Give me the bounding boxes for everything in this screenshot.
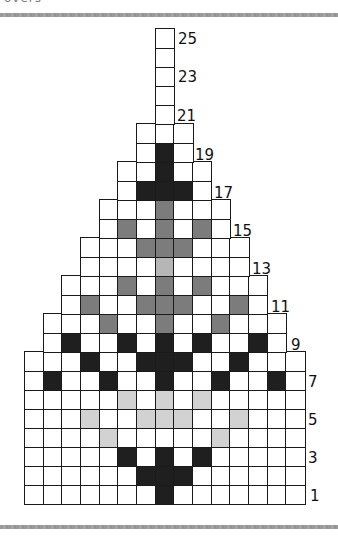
chart-cell <box>248 427 268 448</box>
chart-cell <box>155 66 175 87</box>
chart-cell <box>192 218 212 239</box>
chart-cell <box>155 351 175 372</box>
chart-cell <box>24 408 44 429</box>
chart-cell <box>267 389 287 410</box>
chart-cell <box>229 484 249 505</box>
chart-cell <box>99 275 119 296</box>
chart-cell <box>155 465 175 486</box>
chart-cell <box>173 123 193 144</box>
chart-cell <box>136 465 156 486</box>
chart-cell <box>99 313 119 334</box>
chart-cell <box>24 484 44 505</box>
chart-cell <box>192 370 212 391</box>
chart-cell <box>117 408 137 429</box>
chart-cell <box>192 465 212 486</box>
chart-cell <box>117 484 137 505</box>
chart-cell <box>192 313 212 334</box>
chart-cell <box>80 313 100 334</box>
chart-cell <box>43 446 63 467</box>
chart-cell <box>80 465 100 486</box>
chart-cell <box>61 275 81 296</box>
chart-cell <box>117 332 137 353</box>
chart-cell <box>155 161 175 182</box>
row-number-label: 23 <box>178 70 197 85</box>
chart-cell <box>24 446 44 467</box>
chart-cell <box>80 389 100 410</box>
chart-cell <box>229 370 249 391</box>
chart-cell <box>173 237 193 258</box>
chart-cell <box>211 199 231 220</box>
chart-cell <box>211 294 231 315</box>
chart-cell <box>99 427 119 448</box>
chart-cell <box>211 389 231 410</box>
chart-cell <box>267 370 287 391</box>
chart-cell <box>99 408 119 429</box>
chart-cell <box>192 180 212 201</box>
chart-cell <box>211 427 231 448</box>
row-number-label: 7 <box>308 375 318 390</box>
row-number-label: 5 <box>308 413 318 428</box>
chart-cell <box>117 180 137 201</box>
chart-cell <box>192 389 212 410</box>
chart-cell <box>229 389 249 410</box>
chart-cell <box>117 370 137 391</box>
row-number-label: 3 <box>308 451 318 466</box>
chart-cell <box>136 446 156 467</box>
chart-cell <box>43 313 63 334</box>
chart-cell <box>192 408 212 429</box>
chart-cell <box>155 85 175 106</box>
chart-cell <box>136 389 156 410</box>
chart-cell <box>136 351 156 372</box>
row-number-label: 9 <box>291 338 301 353</box>
chart-cell <box>229 446 249 467</box>
chart-cell <box>248 351 268 372</box>
chart-cell <box>229 408 249 429</box>
chart-cell <box>80 275 100 296</box>
chart-cell <box>136 427 156 448</box>
chart-cell <box>267 313 287 334</box>
chart-cell <box>43 408 63 429</box>
chart-cell <box>192 446 212 467</box>
chart-cell <box>192 294 212 315</box>
chart-cell <box>136 294 156 315</box>
chart-cell <box>43 389 63 410</box>
chart-cell <box>155 199 175 220</box>
chart-cell <box>80 351 100 372</box>
chart-cell <box>248 370 268 391</box>
chart-cell <box>211 465 231 486</box>
chart-cell <box>211 332 231 353</box>
chart-cell <box>173 351 193 372</box>
chart-cell <box>80 484 100 505</box>
chart-cell <box>117 389 137 410</box>
chart-cell <box>61 446 81 467</box>
chart-cell <box>136 408 156 429</box>
chart-cell <box>285 351 305 372</box>
chart-cell <box>99 446 119 467</box>
chart-cell <box>211 484 231 505</box>
chart-cell <box>155 408 175 429</box>
chart-cell <box>229 427 249 448</box>
chart-cell <box>80 256 100 277</box>
chart-cell <box>173 370 193 391</box>
chart-cell <box>285 389 305 410</box>
chart-cell <box>173 465 193 486</box>
chart-cell <box>173 408 193 429</box>
chart-cell <box>155 484 175 505</box>
chart-cell <box>211 313 231 334</box>
chart-cell <box>117 446 137 467</box>
chart-cell <box>229 275 249 296</box>
chart-cell <box>61 465 81 486</box>
chart-cell <box>155 142 175 163</box>
chart-cell <box>24 370 44 391</box>
chart-cell <box>267 446 287 467</box>
chart-cell <box>155 104 175 125</box>
chart-cell <box>117 218 137 239</box>
chart-cell <box>99 465 119 486</box>
chart-cell <box>211 275 231 296</box>
chart-cell <box>99 237 119 258</box>
chart-cell <box>248 294 268 315</box>
chart-cell <box>99 256 119 277</box>
chart-cell <box>248 446 268 467</box>
chart-cell <box>267 332 287 353</box>
row-number-label: 13 <box>252 262 271 277</box>
